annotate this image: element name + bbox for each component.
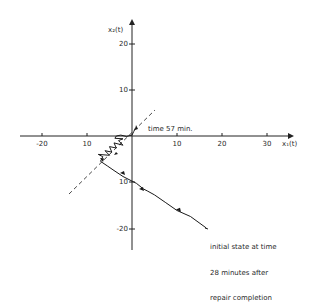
x-tick-label: 10 [173,141,182,148]
initial-state-line-3: repair completion [210,294,277,303]
y-tick-label: 10 [119,87,128,94]
arrow-marker-icon [114,152,118,155]
initial-state-pointer [205,228,208,229]
y-tick-label: 10 [119,179,128,186]
initial-state-line-2: 28 minutes after [210,269,277,278]
end-time-annotation: time 57 min. [148,126,193,133]
trajectory-curve [98,128,206,228]
x-tick-label: 30 [263,141,272,148]
y-tick-label: 20 [119,41,128,48]
y-axis-label: x₂(t) [108,27,123,34]
initial-state-line-1: initial state at time [210,243,277,252]
arrow-marker-icon [135,125,138,130]
x-axis-label: x₁(t) [282,141,297,148]
x-tick-label: 20 [218,141,227,148]
x-tick-label: -20 [36,141,47,148]
y-tick-label: -20 [117,226,128,233]
direction-arrows [100,125,181,212]
initial-state-annotation: initial state at time 28 minutes after r… [210,226,277,306]
x-tick-label: 10 [83,141,92,148]
